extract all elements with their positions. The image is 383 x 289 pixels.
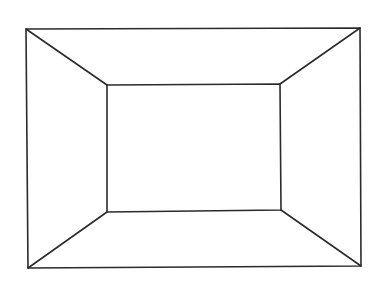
inner-rectangle bbox=[107, 84, 281, 212]
perspective-frame-diagram bbox=[0, 0, 383, 289]
diagonal-bottom-right bbox=[281, 210, 361, 266]
diagonal-bottom-left bbox=[28, 212, 107, 268]
diagonal-top-left bbox=[26, 29, 107, 85]
diagonal-top-right bbox=[280, 28, 360, 84]
